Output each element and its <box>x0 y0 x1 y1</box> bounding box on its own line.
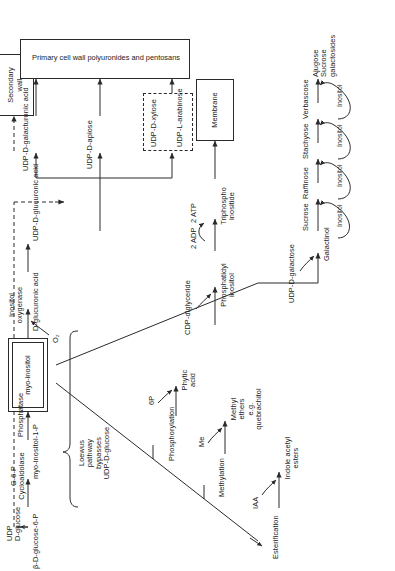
terminal-label-primary-cell-wall: Primary cell wall polyuronides and pento… <box>22 54 190 63</box>
label-udp-d-glucose: UDP D-glucose <box>6 507 23 541</box>
label-triphosphoinositide: Triphospho inositide <box>220 177 237 235</box>
label-6p: 6P <box>148 396 156 405</box>
arrow-iaa-entry <box>262 480 276 495</box>
enzyme-label-g6p-cycloaldolase: G-6-P Cycloaldolase <box>10 443 27 509</box>
label-methyl-ethers: Methyl ethers e.g. quebrachitol <box>230 383 264 435</box>
terminal-label-membrane: Membrane <box>211 80 220 140</box>
label-2-adp: 2 ADP <box>190 228 198 249</box>
label-verbascose: Verbascose <box>302 79 310 119</box>
label-udp-d-galactose: UDP-D-galactose <box>288 244 296 303</box>
terminal-box-membrane: Membrane <box>196 79 234 141</box>
label-cdp-diglyceride: CDP-diglyceride <box>184 280 192 335</box>
label-d-glucuronic-acid: D-glucuronic acid <box>32 272 40 331</box>
label-beta-d-glucose-6p: β-D-glucose-6-P <box>32 514 40 569</box>
arrow-cdp-diglyceride-entry <box>196 294 211 309</box>
label-methylation: Methylation <box>218 458 226 497</box>
label-udp-d-galacturonic-acid: UDP-D-galacturonic acid <box>22 87 30 171</box>
label-myo-inositol-1p: myo-inositol-1-P <box>32 424 40 479</box>
label-galactinol: Galactinol <box>323 227 331 261</box>
label-phosphatidyl-inositol: Phosphatidyl inositol <box>220 255 237 315</box>
enzyme-label-inositol-oxygenase: Inositol oxygenase <box>8 275 25 335</box>
figure-stage: myo-inositol Secondary wall Primary cell… <box>0 0 395 571</box>
label-2-atp: 2 ATP <box>190 203 198 223</box>
label-udp-d-apiose: UDP-D-apiose <box>86 120 94 169</box>
label-raffinose: Raffinose <box>302 167 310 199</box>
label-indole-acetyl-esters: Indole acetyl esters <box>284 431 301 485</box>
arrow-adp-atp-loop <box>199 223 205 241</box>
label-inositol-3: Inositol <box>336 124 344 147</box>
arrow-6p-entry <box>158 390 172 403</box>
label-udp-d-glucuronic-acid: UDP-D-glucuronic acid <box>32 164 40 241</box>
label-esterification: Esterification <box>272 515 280 559</box>
label-sucrose: Sucrose <box>302 203 310 231</box>
label-iaa: IAA <box>252 497 260 509</box>
label-phosphorylation: Phosphorylation <box>168 406 176 461</box>
label-inositol-2: Inositol <box>336 164 344 187</box>
arrow-me-entry <box>208 428 222 443</box>
label-phytic-acid: Phytic acid <box>181 361 198 399</box>
label-ajugose-sucrose-galactosides: Ajugose Sucrose galactosides <box>312 35 337 77</box>
annotation-loewus-pathway: Loewus pathway bypasses UDP-D-glucose <box>78 420 112 486</box>
label-inositol-1: Inositol <box>336 204 344 227</box>
label-me: Me <box>198 437 206 447</box>
node-box-myo-inositol: myo-inositol <box>8 338 48 412</box>
terminal-box-primary-cell-wall: Primary cell wall polyuronides and pento… <box>20 39 190 79</box>
label-udp-l-arabinose: UDP-L-arabinose <box>176 88 184 147</box>
arrow-udpgalactose-entry <box>300 256 314 271</box>
label-o2: O₂ <box>52 334 60 343</box>
label-udp-d-xylose: UDP-D-xylose <box>150 99 158 147</box>
label-stachyose: Stachyose <box>302 124 310 159</box>
enzyme-label-phosphatase: Phosphatase <box>17 393 25 437</box>
pathway-canvas: myo-inositol Secondary wall Primary cell… <box>0 0 395 571</box>
label-inositol-4: Inositol <box>336 84 344 107</box>
